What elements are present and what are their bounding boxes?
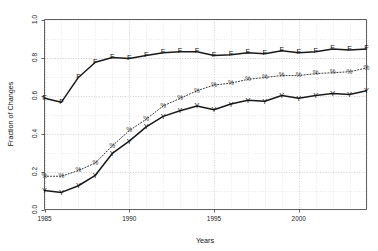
data-marker-Y: Y bbox=[161, 112, 166, 121]
data-marker-Y: Y bbox=[279, 91, 284, 100]
data-marker-pct: % bbox=[211, 81, 217, 88]
data-marker-F: F bbox=[330, 43, 335, 52]
data-marker-pct: % bbox=[177, 94, 183, 101]
data-marker-Y: Y bbox=[144, 122, 149, 131]
data-marker-F: F bbox=[110, 52, 115, 61]
data-marker-pct: % bbox=[313, 69, 319, 76]
data-marker-Y: Y bbox=[59, 188, 64, 197]
data-marker-F: F bbox=[263, 48, 268, 57]
data-marker-pct: % bbox=[296, 71, 302, 78]
y-axis-tick-labels: 0.00.20.40.60.81.0 bbox=[31, 15, 38, 214]
data-marker-Y: Y bbox=[228, 100, 233, 109]
x-axis-title: Years bbox=[196, 236, 215, 245]
data-marker-pct: % bbox=[160, 102, 166, 109]
data-marker-pct: % bbox=[75, 166, 81, 173]
data-marker-Y: Y bbox=[364, 86, 369, 95]
data-marker-F: F bbox=[280, 45, 285, 54]
line-chart-canvas: FFFFFFFFFFFFFFFFFFFF%%%%%%%%%%%%%%%%%%%%… bbox=[0, 0, 378, 251]
data-marker-pct: % bbox=[364, 64, 370, 71]
data-marker-F: F bbox=[364, 43, 369, 52]
data-marker-F: F bbox=[93, 57, 98, 66]
y-tick-label: 0.8 bbox=[31, 53, 38, 62]
data-marker-Y: Y bbox=[313, 91, 318, 100]
data-marker-Y: Y bbox=[76, 181, 81, 190]
x-tick-label: 2000 bbox=[292, 215, 307, 222]
major-gridlines bbox=[45, 20, 367, 210]
data-marker-F: F bbox=[127, 53, 132, 62]
x-tick-label: 1995 bbox=[207, 215, 222, 222]
data-marker-Y: Y bbox=[195, 101, 200, 110]
data-marker-pct: % bbox=[262, 73, 268, 80]
data-marker-pct: % bbox=[228, 79, 234, 86]
data-marker-pct: % bbox=[92, 159, 98, 166]
data-marker-F: F bbox=[42, 93, 47, 102]
data-marker-Y: Y bbox=[330, 89, 335, 98]
x-tick-label: 1990 bbox=[122, 215, 137, 222]
data-marker-F: F bbox=[59, 97, 64, 106]
data-marker-pct: % bbox=[42, 172, 48, 179]
data-marker-Y: Y bbox=[127, 137, 132, 146]
data-marker-pct: % bbox=[330, 68, 336, 75]
minor-gridlines bbox=[45, 20, 368, 210]
data-marker-pct: % bbox=[126, 126, 132, 133]
data-marker-F: F bbox=[76, 72, 81, 81]
plot-frame bbox=[45, 20, 367, 210]
y-axis-title: Fraction of Changes bbox=[6, 81, 15, 146]
data-marker-F: F bbox=[246, 47, 251, 56]
y-tick-label: 0.2 bbox=[31, 167, 38, 176]
x-axis-tick-labels: 1985199019952000 bbox=[37, 215, 306, 222]
y-tick-label: 0.4 bbox=[31, 129, 38, 138]
y-tick-label: 0.0 bbox=[31, 205, 38, 214]
data-marker-pct: % bbox=[109, 142, 115, 149]
y-tick-label: 1.0 bbox=[31, 15, 38, 24]
data-marker-Y: Y bbox=[347, 90, 352, 99]
y-tick-label: 0.6 bbox=[31, 91, 38, 100]
data-marker-Y: Y bbox=[212, 105, 217, 114]
data-marker-pct: % bbox=[143, 115, 149, 122]
data-marker-F: F bbox=[313, 46, 318, 55]
data-marker-Y: Y bbox=[178, 106, 183, 115]
data-marker-F: F bbox=[212, 50, 217, 59]
data-marker-Y: Y bbox=[245, 96, 250, 105]
data-marker-pct: % bbox=[347, 68, 353, 75]
data-marker-F: F bbox=[296, 47, 301, 56]
chart-figure: FFFFFFFFFFFFFFFFFFFF%%%%%%%%%%%%%%%%%%%%… bbox=[0, 0, 378, 251]
data-marker-Y: Y bbox=[93, 171, 98, 180]
data-marker-F: F bbox=[347, 44, 352, 53]
data-marker-F: F bbox=[229, 49, 234, 58]
data-marker-pct: % bbox=[245, 75, 251, 82]
data-marker-Y: Y bbox=[262, 97, 267, 106]
data-marker-Y: Y bbox=[110, 149, 115, 158]
data-marker-F: F bbox=[144, 50, 149, 59]
data-marker-pct: % bbox=[194, 87, 200, 94]
x-tick-label: 1985 bbox=[37, 215, 52, 222]
data-marker-F: F bbox=[161, 47, 166, 56]
data-marker-F: F bbox=[178, 46, 183, 55]
data-marker-F: F bbox=[195, 46, 200, 55]
data-marker-pct: % bbox=[59, 172, 65, 179]
data-marker-Y: Y bbox=[42, 186, 47, 195]
data-marker-pct: % bbox=[279, 71, 285, 78]
data-marker-Y: Y bbox=[296, 94, 301, 103]
